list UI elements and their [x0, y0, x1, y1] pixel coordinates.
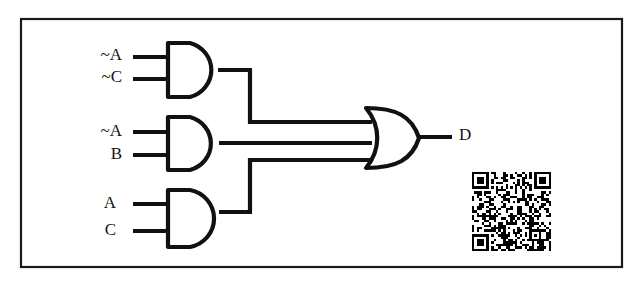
- and-gate-3-body: [168, 190, 214, 247]
- input-label-a3-1: C: [105, 220, 116, 239]
- wire-and1-to-or-input-0: [250, 70, 372, 122]
- and-gate-2-body: [168, 117, 211, 170]
- input-label-a1-1: ~C: [101, 67, 122, 86]
- and-gate-1-body: [168, 43, 211, 97]
- and-gate-3: [133, 190, 252, 247]
- input-label-a2-1: B: [111, 144, 122, 163]
- input-label-a1-0: ~A: [101, 45, 123, 64]
- qr-code: [472, 172, 551, 251]
- and-gate-1: [133, 43, 252, 97]
- or-gate-1-body: [366, 108, 419, 168]
- input-label-a3-0: A: [104, 193, 117, 212]
- or-gate-1: [366, 108, 452, 168]
- wire-and3-to-or-input-2: [250, 160, 372, 212]
- output-label-d: D: [459, 125, 471, 144]
- circuit-diagram-canvas: ~A ~C ~A B A C D: [0, 0, 643, 287]
- input-label-a2-0: ~A: [101, 121, 123, 140]
